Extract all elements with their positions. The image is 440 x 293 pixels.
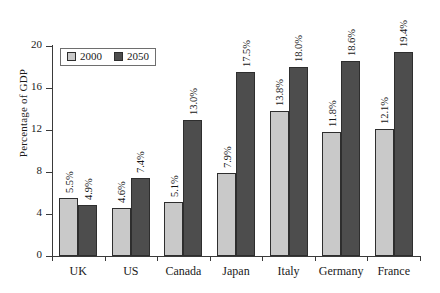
y-tick-label: 16 xyxy=(31,80,46,92)
bar-value-label: 4.9% xyxy=(83,178,94,200)
bar-value-label: 7.4% xyxy=(135,151,146,173)
bar-germany-2000: 11.8% xyxy=(322,132,341,256)
x-tick xyxy=(367,256,368,261)
category-label-uk: UK xyxy=(52,264,105,279)
legend-label-2000: 2000 xyxy=(80,51,102,62)
plot-area: 5.5%4.9%4.6%7.4%5.1%13.0%7.9%17.5%13.8%1… xyxy=(52,46,420,256)
bar-canada-2000: 5.1% xyxy=(164,202,183,256)
legend-entry-2050: 2050 xyxy=(114,51,149,62)
category-label-france: France xyxy=(367,264,420,279)
bar-value-label: 5.1% xyxy=(169,176,180,198)
bar-value-label: 18.0% xyxy=(293,35,304,62)
x-tick xyxy=(210,256,211,261)
bar-value-label: 13.8% xyxy=(274,79,285,106)
y-tick-label: 4 xyxy=(37,206,47,218)
bar-france-2050: 19.4% xyxy=(394,52,413,256)
x-tick xyxy=(262,256,263,261)
y-tick-label: 20 xyxy=(31,38,46,50)
bar-value-label: 4.6% xyxy=(116,181,127,203)
chart-legend: 2000 2050 xyxy=(60,48,156,66)
category-label-us: US xyxy=(105,264,158,279)
bar-italy-2050: 18.0% xyxy=(289,67,308,256)
y-tick-label: 12 xyxy=(31,122,46,134)
y-tick-label: 0 xyxy=(37,248,47,260)
category-label-italy: Italy xyxy=(262,264,315,279)
y-tick-label: 8 xyxy=(37,164,47,176)
bar-us-2050: 7.4% xyxy=(131,178,150,256)
legend-swatch-icon-2050 xyxy=(114,52,123,61)
x-tick xyxy=(315,256,316,261)
x-tick xyxy=(420,256,421,261)
bar-france-2000: 12.1% xyxy=(375,129,394,256)
x-tick xyxy=(105,256,106,261)
bar-value-label: 11.8% xyxy=(327,100,338,127)
bar-italy-2000: 13.8% xyxy=(270,111,289,256)
bar-value-label: 19.4% xyxy=(398,20,409,47)
y-axis-title: Percentage of GDP xyxy=(17,43,29,183)
bar-us-2000: 4.6% xyxy=(112,208,131,256)
legend-label-2050: 2050 xyxy=(127,51,149,62)
bar-value-label: 13.0% xyxy=(188,87,199,114)
category-label-canada: Canada xyxy=(157,264,210,279)
bar-japan-2050: 17.5% xyxy=(236,72,255,256)
bar-value-label: 7.9% xyxy=(222,146,233,168)
bar-germany-2050: 18.6% xyxy=(341,61,360,256)
bar-canada-2050: 13.0% xyxy=(183,120,202,257)
legend-entry-2000: 2000 xyxy=(67,51,102,62)
bar-uk-2050: 4.9% xyxy=(78,205,97,256)
category-label-japan: Japan xyxy=(210,264,263,279)
bar-value-label: 12.1% xyxy=(379,97,390,124)
bar-value-label: 17.5% xyxy=(241,40,252,67)
x-axis-line xyxy=(52,256,420,257)
x-tick xyxy=(52,256,53,261)
bar-japan-2000: 7.9% xyxy=(217,173,236,256)
bar-value-label: 18.6% xyxy=(346,29,357,56)
bar-uk-2000: 5.5% xyxy=(59,198,78,256)
legend-swatch-icon-2000 xyxy=(67,52,76,61)
category-label-germany: Germany xyxy=(315,264,368,279)
bar-chart: Percentage of GDP 048121620 5.5%4.9%4.6%… xyxy=(0,0,440,293)
bar-value-label: 5.5% xyxy=(64,171,75,193)
x-tick xyxy=(157,256,158,261)
